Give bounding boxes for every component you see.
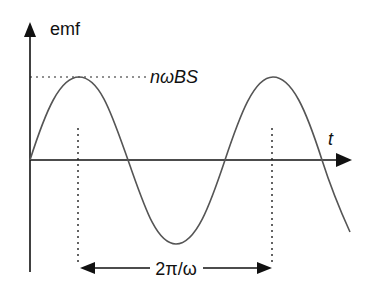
period-label: 2π/ω xyxy=(155,259,196,279)
amplitude-label: nωBS xyxy=(150,67,198,87)
y-axis-label: emf xyxy=(50,19,81,39)
arrow-left-icon xyxy=(80,262,95,274)
emf-diagram: emf nωBS t 2π/ω xyxy=(0,0,375,290)
x-axis-arrow-icon xyxy=(336,153,352,167)
x-axis-label: t xyxy=(328,129,334,149)
arrow-right-icon xyxy=(257,262,272,274)
y-axis-arrow-icon xyxy=(24,22,36,37)
